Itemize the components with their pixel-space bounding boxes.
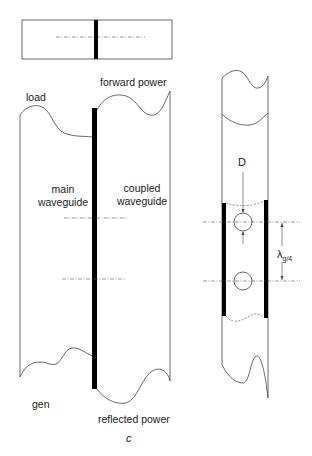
diameter-arrow-bottom xyxy=(242,231,245,235)
forward-power-label: forward power xyxy=(100,77,167,88)
diameter-arrow-top xyxy=(242,209,245,213)
detail-top-break xyxy=(222,70,268,88)
detail-bottom-break xyxy=(222,356,268,398)
coupled-waveguide-top-break xyxy=(97,91,170,115)
spacing-arrow-top xyxy=(281,223,284,227)
reflected-power-label: reflected power xyxy=(98,414,170,425)
main-waveguide-label-line1: main xyxy=(36,183,90,196)
detail-right-plate xyxy=(264,200,268,318)
top-view xyxy=(22,20,172,59)
diagram-canvas xyxy=(0,0,312,456)
detail-left-plate xyxy=(222,203,226,316)
spacing-label-subscript: g/4 xyxy=(283,255,293,262)
coupled-waveguide-label-line1: coupled xyxy=(114,182,170,195)
spacing-label: λg/4 xyxy=(277,249,292,260)
figure-caption: c xyxy=(126,433,132,444)
top-view-coupling-wall xyxy=(94,20,98,59)
spacing-arrow-bottom xyxy=(281,276,284,280)
load-label: load xyxy=(26,92,46,103)
main-waveguide-label-line2: waveguide xyxy=(36,196,90,209)
coupled-waveguide-label: coupled waveguide xyxy=(114,182,170,208)
coupled-waveguide-bottom-break xyxy=(97,369,170,403)
side-view xyxy=(20,91,170,403)
main-waveguide-bottom-break xyxy=(20,348,93,377)
detail-view xyxy=(203,70,300,398)
main-waveguide-label: main waveguide xyxy=(36,183,90,209)
detail-dashed-cut-bottom xyxy=(226,314,264,321)
detail-upper-cut xyxy=(222,113,268,125)
directional-coupler-figure: load forward power main waveguide couple… xyxy=(0,0,312,456)
coupled-waveguide-label-line2: waveguide xyxy=(114,195,170,208)
main-waveguide-top-break xyxy=(20,106,93,137)
hole-diameter-label: D xyxy=(238,157,246,168)
detail-dashed-cut-top xyxy=(226,201,264,206)
coupling-wall xyxy=(92,108,97,389)
spacing-label-lambda: λ xyxy=(277,248,283,260)
gen-label: gen xyxy=(32,399,50,410)
